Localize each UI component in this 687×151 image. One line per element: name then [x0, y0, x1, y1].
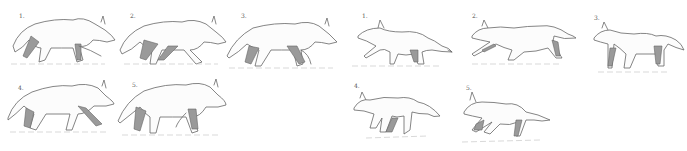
fox-galloping-drawing-icon	[468, 12, 576, 64]
wolf-frame-1: 1.	[5, 8, 115, 64]
fox-frame-4: 4.	[352, 82, 442, 140]
fox-frame-5: 5.	[460, 84, 550, 142]
fox-frame-3: 3.	[592, 14, 684, 72]
fox-galloping-drawing-icon	[352, 10, 452, 66]
wolf-frame-4: 4.	[6, 78, 114, 132]
wolf-frame-5: 5.	[116, 77, 226, 135]
wolf-walking-drawing-icon	[225, 10, 337, 68]
wolf-frame-2: 2.	[118, 10, 226, 64]
wolf-frame-3: 3.	[225, 10, 337, 68]
wolf-walking-drawing-icon	[6, 78, 114, 132]
fox-galloping-drawing-icon	[460, 84, 550, 142]
wolf-walking-drawing-icon	[5, 8, 115, 64]
fox-frame-2: 2.	[468, 12, 576, 64]
wolf-walking-drawing-icon	[116, 77, 226, 135]
wolf-walking-drawing-icon	[118, 10, 226, 64]
fox-galloping-drawing-icon	[592, 14, 684, 72]
fox-galloping-drawing-icon	[352, 82, 442, 140]
fox-frame-1: 1.	[352, 10, 452, 66]
